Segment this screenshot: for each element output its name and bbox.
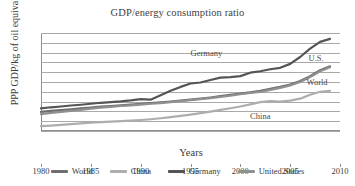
legend-swatch-icon bbox=[168, 170, 185, 173]
y-axis-label: PPP GDP/kg of oil equivalent bbox=[9, 0, 20, 106]
legend-item-china[interactable]: China bbox=[110, 166, 151, 176]
legend-label: Germany bbox=[189, 166, 221, 176]
legend-label: China bbox=[131, 166, 151, 176]
legend-item-united-states[interactable]: United States bbox=[238, 166, 305, 176]
chart-figure: GDP/energy consumption ratio PPP GDP/kg … bbox=[0, 0, 355, 186]
legend-item-germany[interactable]: Germany bbox=[168, 166, 221, 176]
legend-swatch-icon bbox=[238, 170, 255, 173]
plot-area: 012345678910 198019851990199520002005201… bbox=[41, 33, 340, 131]
series-label-china: China bbox=[250, 111, 270, 121]
chart-title: GDP/energy consumption ratio bbox=[0, 7, 355, 18]
series-label-us: U.S. bbox=[309, 53, 324, 63]
chart-legend: WorldChinaGermanyUnited States bbox=[0, 166, 355, 176]
legend-swatch-icon bbox=[51, 170, 68, 173]
x-axis-label: Years bbox=[36, 147, 346, 158]
legend-label: United States bbox=[259, 166, 305, 176]
series-label-world: World bbox=[307, 77, 328, 87]
legend-label: World bbox=[72, 166, 93, 176]
gridline bbox=[41, 131, 340, 132]
series-label-germany: Germany bbox=[191, 48, 223, 58]
legend-swatch-icon bbox=[110, 170, 127, 173]
legend-item-world[interactable]: World bbox=[51, 166, 93, 176]
series-line-germany bbox=[41, 39, 330, 109]
